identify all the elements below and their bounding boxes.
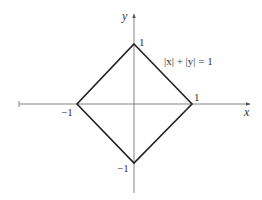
vertex-label-left: −1	[61, 106, 73, 118]
vertex-label-right: 1	[194, 91, 200, 103]
vertex-label-bottom: −1	[117, 162, 129, 174]
diamond-diagram: y x 1 1 −1 −1 |x| + |y| = 1	[0, 0, 262, 200]
vertex-label-top: 1	[139, 36, 145, 48]
x-axis-label: x	[243, 105, 250, 119]
equation-label: |x| + |y| = 1	[164, 55, 213, 67]
x-axis	[19, 101, 250, 107]
y-axis-label: y	[121, 9, 128, 23]
